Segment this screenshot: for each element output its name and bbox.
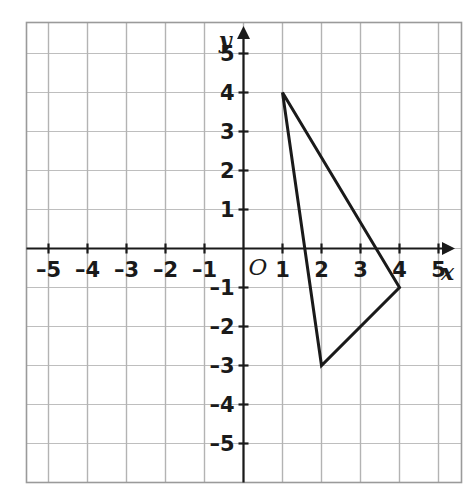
x-tick-label-neg5: –5	[36, 260, 61, 281]
x-tick-label-neg2: –2	[153, 260, 178, 281]
x-tick-label-1: 1	[275, 260, 290, 281]
y-tick-label-neg2: –2	[209, 316, 234, 337]
x-tick-label-neg3: –3	[114, 260, 139, 281]
y-tick-label-neg4: –4	[209, 394, 234, 415]
coordinate-plane-figure: –5–4–3–2–11234554321–1–2–3–4–5 x y O	[0, 0, 475, 493]
axis-lines	[27, 26, 456, 483]
y-axis-label: y	[219, 29, 232, 51]
x-tick-label-4: 4	[392, 260, 407, 281]
origin-label: O	[249, 256, 268, 279]
y-tick-label-3: 3	[220, 121, 235, 142]
y-tick-label-neg3: –3	[209, 355, 234, 376]
triangle-shape	[283, 93, 400, 366]
x-tick-label-neg4: –4	[75, 260, 100, 281]
y-tick-label-2: 2	[220, 160, 235, 181]
x-tick-label-2: 2	[314, 260, 329, 281]
y-tick-label-4: 4	[220, 82, 235, 103]
x-axis-label: x	[441, 261, 454, 283]
y-tick-label-1: 1	[220, 199, 235, 220]
x-tick-label-3: 3	[353, 260, 368, 281]
coordinate-plane-svg	[0, 0, 475, 493]
y-tick-label-neg1: –1	[209, 277, 234, 298]
y-tick-label-neg5: –5	[209, 433, 234, 454]
